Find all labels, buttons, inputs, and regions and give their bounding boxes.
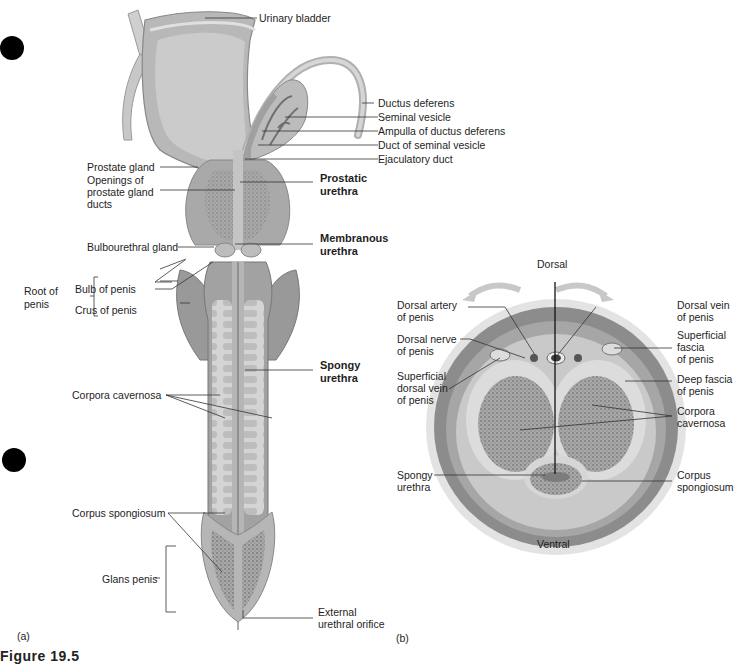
- figure-caption: Figure 19.5: [0, 648, 79, 664]
- label-ventral: Ventral: [537, 538, 570, 550]
- label-spongy-urethra-line2: urethra: [320, 372, 358, 385]
- panel-a-tag: (a): [17, 630, 30, 642]
- label-dorsal-vein-line1: Dorsal vein: [677, 299, 730, 311]
- dorsal-arrows: [462, 285, 614, 302]
- label-external-urethral-orifice-line1: External: [318, 606, 357, 618]
- label-superficial-dorsal-vein-line1: Superficial: [397, 370, 446, 382]
- label-external-urethral-orifice-line2: urethral orifice: [318, 618, 385, 630]
- label-membranous-urethra-line1: Membranous: [320, 232, 388, 245]
- label-prostatic-urethra-line1: Prostatic: [320, 172, 367, 185]
- label-root-of-penis-line1: Root of: [24, 285, 58, 297]
- label-urinary-bladder: Urinary bladder: [259, 12, 331, 24]
- label-superficial-fascia-line1: Superficial: [677, 329, 726, 341]
- label-prostate-gland: Prostate gland: [87, 161, 155, 173]
- panel-b-tag: (b): [396, 632, 409, 644]
- label-dorsal-nerve-line2: of penis: [397, 345, 434, 357]
- label-glans-penis: Glans penis: [102, 573, 157, 585]
- label-spongy-urethra-line1: Spongy: [320, 359, 360, 372]
- label-corpora-cavernosa-b-line1: Corpora: [677, 405, 715, 417]
- label-openings-line3: ducts: [87, 198, 112, 210]
- label-bulb-of-penis: Bulb of penis: [75, 283, 136, 295]
- label-superficial-fascia-line3: of penis: [677, 353, 714, 365]
- label-spongy-urethra-b-line1: Spongy: [397, 469, 433, 481]
- label-superficial-dorsal-vein-line2: dorsal vein: [397, 382, 448, 394]
- label-duct-seminal-vesicle: Duct of seminal vesicle: [378, 139, 485, 151]
- label-deep-fascia-line2: of penis: [677, 385, 714, 397]
- label-seminal-vesicle: Seminal vesicle: [378, 111, 451, 123]
- label-ductus-deferens: Ductus deferens: [378, 97, 454, 109]
- label-dorsal-vein-line2: of penis: [677, 311, 714, 323]
- label-openings-line1: Openings of: [87, 174, 144, 186]
- label-deep-fascia-line1: Deep fascia: [677, 373, 732, 385]
- label-dorsal-nerve-line1: Dorsal nerve: [397, 333, 457, 345]
- label-corpus-spongiosum: Corpus spongiosum: [72, 507, 165, 519]
- label-ampulla: Ampulla of ductus deferens: [378, 125, 505, 137]
- label-bulbourethral-gland: Bulbourethral gland: [87, 241, 178, 253]
- label-crus-of-penis: Crus of penis: [75, 304, 137, 316]
- label-dorsal: Dorsal: [537, 258, 567, 270]
- label-root-of-penis-line2: penis: [24, 298, 49, 310]
- prostate-gland: [186, 150, 290, 250]
- label-prostatic-urethra-line2: urethra: [320, 185, 358, 198]
- label-superficial-dorsal-vein-line3: of penis: [397, 394, 434, 406]
- label-openings-line2: prostate gland: [87, 186, 154, 198]
- label-corpus-spongiosum-b-line2: spongiosum: [677, 481, 734, 493]
- ductus-deferens-and-seminal-vesicle: [240, 60, 363, 170]
- label-superficial-fascia-line2: fascia: [677, 341, 704, 353]
- label-membranous-urethra-line2: urethra: [320, 245, 358, 258]
- label-spongy-urethra-b-line2: urethra: [397, 481, 430, 493]
- label-ejaculatory-duct: Ejaculatory duct: [378, 153, 453, 165]
- label-corpus-spongiosum-b-line1: Corpus: [677, 469, 711, 481]
- label-dorsal-artery-line2: of penis: [397, 311, 434, 323]
- label-dorsal-artery-line1: Dorsal artery: [397, 299, 457, 311]
- label-corpora-cavernosa: Corpora cavernosa: [72, 389, 161, 401]
- label-corpora-cavernosa-b-line2: cavernosa: [677, 417, 725, 429]
